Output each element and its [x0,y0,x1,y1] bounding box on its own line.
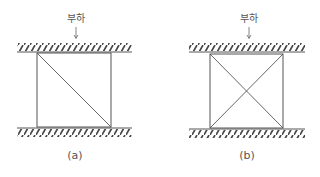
load-arrow-a [74,27,78,39]
panel-b: 부하 (b) [189,12,305,162]
bottom-plate-hatch-b [189,130,305,138]
panel-a: 부하 (a) [17,12,132,162]
top-plate-hatch-b [189,43,305,51]
load-label-a: 부하 [67,12,85,24]
load-arrow-b [247,27,251,39]
diagram: 부하 (a) 부하 (b) [0,0,320,177]
caption-b: (b) [239,149,255,162]
diagonal-a [37,53,111,127]
load-label-b: 부하 [240,12,258,24]
top-plate-hatch-a [17,43,132,51]
bottom-plate-hatch-a [17,129,132,137]
caption-a: (a) [67,149,82,162]
